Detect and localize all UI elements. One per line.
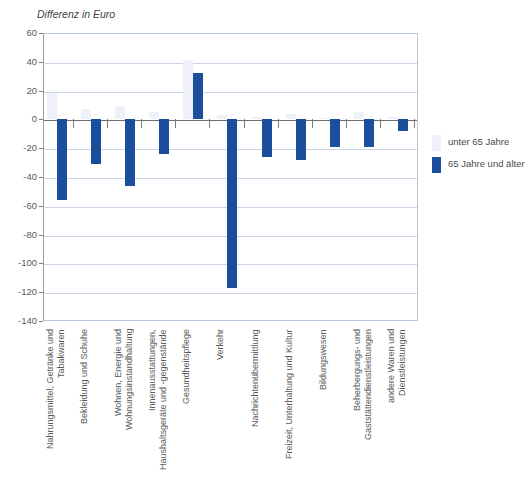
bar <box>81 109 91 119</box>
x-axis-tick-mark <box>141 119 142 128</box>
legend-swatch <box>432 135 441 151</box>
y-axis-tick-mark <box>39 263 43 264</box>
x-axis-tick-mark <box>414 119 415 128</box>
y-axis-tick-label: 20 <box>5 85 37 96</box>
bar <box>193 73 203 119</box>
x-axis-tick-mark <box>209 119 210 128</box>
bar <box>91 119 101 164</box>
y-axis-title: Differenz in Euro <box>37 8 115 20</box>
y-axis-tick-label: -40 <box>5 171 37 182</box>
bar <box>125 119 135 185</box>
bar <box>388 117 398 120</box>
x-axis-category-label: Wohnen, Energie und Wohnungsinstandhaltu… <box>113 329 134 477</box>
x-axis-category-label: Innenausstattungen, Haushaltsgeräte und … <box>147 329 168 477</box>
gridline <box>44 63 417 64</box>
y-axis-tick-mark <box>39 119 43 120</box>
y-axis-tick-mark <box>39 321 43 322</box>
y-axis-tick-mark <box>39 177 43 178</box>
bar <box>115 106 125 119</box>
x-axis-tick-mark <box>278 119 279 128</box>
bar <box>398 119 408 131</box>
x-axis-category-label: Nahrungsmittel, Getränke und Tabakwaren <box>45 329 66 477</box>
legend-swatch <box>432 157 441 173</box>
y-axis-tick-label: -140 <box>5 315 37 326</box>
y-axis-tick-label: -20 <box>5 142 37 153</box>
x-axis-category-label: Verkehr <box>215 329 226 477</box>
y-axis-tick-mark <box>39 235 43 236</box>
bar <box>159 119 169 154</box>
y-axis-tick-label: 0 <box>5 113 37 124</box>
y-axis-tick-label: -120 <box>5 286 37 297</box>
bar <box>286 114 296 120</box>
y-axis-tick-label: 40 <box>5 56 37 67</box>
x-axis-category-label: Freizeit, Unterhaltung und Kultur <box>284 329 295 477</box>
legend-label: unter 65 Jahre <box>448 136 509 147</box>
bar <box>364 119 374 146</box>
y-axis-tick-label: -100 <box>5 257 37 268</box>
y-axis-tick-mark <box>39 206 43 207</box>
y-axis-tick-label: 60 <box>5 27 37 38</box>
bar <box>217 115 227 119</box>
y-axis-tick-mark <box>39 62 43 63</box>
bar <box>57 119 67 200</box>
y-axis-tick-mark <box>39 292 43 293</box>
legend-label: 65 Jahre und älter <box>448 158 525 169</box>
bar <box>262 119 272 156</box>
x-axis-category-label: Nachrichtenübermittlung <box>250 329 261 477</box>
x-axis-category-label: Bekleidung und Schuhe <box>79 329 90 477</box>
bar <box>354 112 364 119</box>
x-axis-category-label: Bildungswesen <box>318 329 329 477</box>
x-axis-tick-mark <box>175 119 176 128</box>
bar <box>330 119 340 146</box>
y-axis-tick-mark <box>39 148 43 149</box>
gridline <box>44 293 417 294</box>
x-axis-tick-mark <box>312 119 313 128</box>
x-axis-tick-mark <box>107 119 108 128</box>
chart-container: Differenz in Euro 6040200-20-40-60-80-10… <box>0 0 529 484</box>
y-axis-tick-mark <box>39 91 43 92</box>
y-axis-tick-label: -80 <box>5 229 37 240</box>
bar <box>183 60 193 119</box>
bar <box>47 93 57 119</box>
bar <box>296 119 306 159</box>
bar <box>320 118 330 119</box>
x-axis-tick-mark <box>73 119 74 128</box>
x-axis-category-label: Gesundheitspflege <box>181 329 192 477</box>
gridline <box>44 92 417 93</box>
x-axis-tick-mark <box>244 119 245 128</box>
x-axis-category-label: andere Waren und Dienstleistungen <box>386 329 407 477</box>
x-axis-tick-mark <box>346 119 347 128</box>
x-axis-category-label: Beherbergungs- und Gaststättendienstleis… <box>352 329 373 477</box>
x-axis-tick-mark <box>380 119 381 128</box>
y-axis-tick-label: -60 <box>5 200 37 211</box>
bar <box>149 112 159 119</box>
bar <box>227 119 237 287</box>
y-axis-tick-mark <box>39 33 43 34</box>
bar <box>252 117 262 120</box>
